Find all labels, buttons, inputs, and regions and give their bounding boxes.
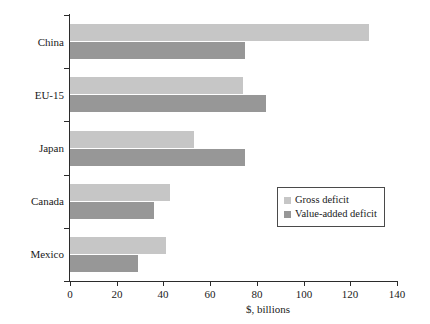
category-label-canada: Canada <box>0 195 64 207</box>
legend-swatch-value-added-deficit <box>284 211 291 218</box>
y-axis-tick <box>64 175 70 176</box>
x-axis-tick-label-120: 120 <box>330 288 370 301</box>
x-axis-tick <box>257 281 258 286</box>
x-axis-tick-label-20: 20 <box>97 288 137 301</box>
x-axis-tick <box>350 281 351 286</box>
x-axis-tick <box>163 281 164 286</box>
x-axis-tick <box>117 281 118 286</box>
category-label-china: China <box>0 36 64 48</box>
legend-item-gross-deficit: Gross deficit <box>284 193 377 207</box>
bar-japan-value-added-deficit <box>70 149 245 166</box>
y-axis-top-cap <box>64 15 70 16</box>
y-axis-tick <box>64 228 70 229</box>
x-axis-title-text: $, billions <box>246 303 290 315</box>
bar-canada-value-added-deficit <box>70 202 154 219</box>
legend-swatch-gross-deficit <box>284 197 291 204</box>
bar-japan-gross-deficit <box>70 131 194 148</box>
x-axis-line <box>69 281 398 282</box>
x-axis-tick <box>210 281 211 286</box>
x-axis-tick-label-140: 140 <box>377 288 417 301</box>
x-axis-tick <box>304 281 305 286</box>
x-axis-title: $, billions <box>0 303 430 316</box>
x-axis-tick-label-0: 0 <box>50 288 90 301</box>
bar-mexico-gross-deficit <box>70 237 166 254</box>
x-axis-tick <box>397 281 398 286</box>
bar-eu-15-gross-deficit <box>70 77 243 94</box>
bar-chart: ChinaEU-15JapanCanadaMexico 020406080100… <box>0 0 430 324</box>
bar-china-gross-deficit <box>70 24 369 41</box>
x-axis-tick <box>70 281 71 286</box>
x-axis-tick-label-80: 80 <box>237 288 277 301</box>
bar-china-value-added-deficit <box>70 42 245 59</box>
y-axis-tick <box>64 68 70 69</box>
legend-label-gross-deficit: Gross deficit <box>295 193 349 207</box>
category-label-mexico: Mexico <box>0 248 64 260</box>
y-axis-tick <box>64 121 70 122</box>
legend-label-value-added-deficit: Value-added deficit <box>295 207 377 221</box>
bar-eu-15-value-added-deficit <box>70 95 266 112</box>
category-label-eu-15: EU-15 <box>0 89 64 101</box>
category-label-japan: Japan <box>0 142 64 154</box>
legend-item-value-added-deficit: Value-added deficit <box>284 207 377 221</box>
x-axis-tick-label-100: 100 <box>284 288 324 301</box>
x-axis-tick-label-40: 40 <box>143 288 183 301</box>
bar-mexico-value-added-deficit <box>70 255 138 272</box>
chart-legend: Gross deficit Value-added deficit <box>277 187 385 227</box>
bar-canada-gross-deficit <box>70 184 170 201</box>
x-axis-tick-label-60: 60 <box>190 288 230 301</box>
